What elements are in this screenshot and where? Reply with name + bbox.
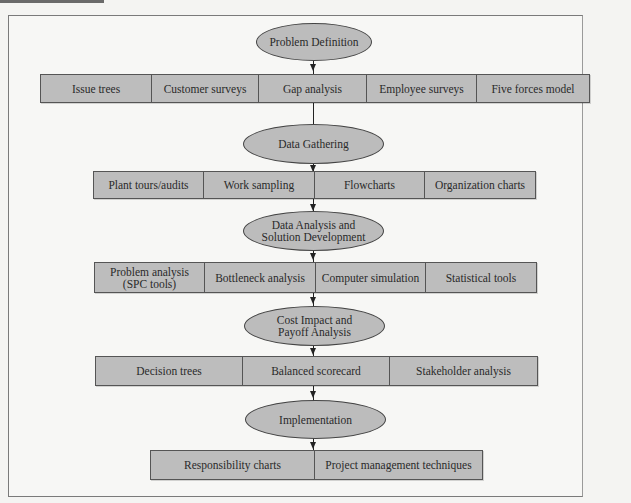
tool-cell: Project management techniques — [315, 451, 482, 479]
tool-cell: Statistical tools — [426, 263, 536, 292]
tool-label: Employee surveys — [379, 83, 464, 95]
tool-cell: Responsibility charts — [151, 451, 315, 479]
tool-cell: Plant tours/audits — [94, 172, 204, 198]
tool-cell: Decision trees — [96, 357, 243, 385]
tool-label: Statistical tools — [446, 272, 517, 284]
tool-label: Customer surveys — [164, 83, 247, 95]
tool-cell: Issue trees — [41, 75, 152, 102]
tool-cell: Five forces model — [477, 75, 589, 102]
stage-oval-data-analysis: Data Analysis and Solution Development — [243, 211, 384, 251]
tool-label: Bottleneck analysis — [215, 272, 305, 284]
tools-row-cost-impact: Decision trees Balanced scorecard Stakeh… — [95, 356, 538, 386]
stage-label: Problem Definition — [269, 36, 358, 48]
tool-label: Responsibility charts — [184, 459, 281, 471]
tools-row-implementation: Responsibility charts Project management… — [150, 450, 483, 480]
tools-row-data-analysis: Problem analysis (SPC tools) Bottleneck … — [94, 262, 537, 293]
tool-cell: Work sampling — [204, 172, 315, 198]
tool-label: Flowcharts — [344, 179, 395, 191]
tool-label: Five forces model — [491, 83, 574, 95]
stage-label: Implementation — [279, 414, 352, 426]
arrow-down-icon — [310, 253, 316, 260]
tool-label: Plant tours/audits — [108, 179, 188, 191]
arrow-down-icon — [310, 391, 316, 398]
arrow-down-icon — [310, 442, 316, 449]
tool-cell: Balanced scorecard — [243, 357, 390, 385]
tool-cell: Employee surveys — [367, 75, 477, 102]
tool-cell: Computer simulation — [316, 263, 426, 292]
tool-label: Issue trees — [72, 83, 120, 95]
tool-label-line1: Problem analysis — [110, 266, 189, 278]
tool-cell: Organization charts — [425, 172, 535, 198]
tool-label-line2: (SPC tools) — [123, 278, 176, 290]
tools-row-problem-definition: Issue trees Customer surveys Gap analysi… — [40, 74, 590, 103]
tool-label: Gap analysis — [283, 83, 342, 95]
stage-label-line1: Cost Impact and — [277, 314, 352, 326]
stage-oval-cost-impact: Cost Impact and Payoff Analysis — [244, 306, 385, 346]
arrow-down-icon — [310, 64, 316, 71]
arrow-down-icon — [310, 297, 316, 304]
stage-label-line1: Data Analysis and — [272, 219, 356, 231]
tool-label: Balanced scorecard — [271, 365, 361, 377]
stage-label-line2: Solution Development — [262, 231, 366, 243]
tool-cell: Flowcharts — [315, 172, 425, 198]
tool-label: Computer simulation — [322, 272, 419, 284]
stage-label: Data Gathering — [278, 138, 349, 150]
stage-label-line2: Payoff Analysis — [278, 326, 351, 338]
tool-cell: Gap analysis — [259, 75, 367, 102]
tool-label: Work sampling — [224, 179, 294, 191]
arrow-down-icon — [310, 204, 316, 211]
stage-oval-problem-definition: Problem Definition — [256, 23, 372, 61]
tool-cell: Stakeholder analysis — [390, 357, 537, 385]
page-header-bar — [0, 0, 104, 3]
tool-label: Stakeholder analysis — [416, 365, 511, 377]
tool-label: Organization charts — [435, 179, 525, 191]
tool-cell: Bottleneck analysis — [205, 263, 316, 292]
tool-label: Decision trees — [136, 365, 201, 377]
tool-label: Project management techniques — [325, 459, 471, 471]
tool-cell: Customer surveys — [152, 75, 259, 102]
tools-row-data-gathering: Plant tours/audits Work sampling Flowcha… — [93, 171, 536, 199]
arrow-down-icon — [310, 348, 316, 355]
stage-oval-data-gathering: Data Gathering — [243, 124, 384, 164]
stage-oval-implementation: Implementation — [245, 400, 386, 439]
tool-cell: Problem analysis (SPC tools) — [95, 263, 205, 292]
